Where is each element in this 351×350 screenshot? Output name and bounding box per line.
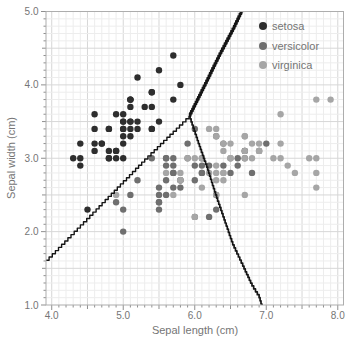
legend-item-versicolor: versicolor: [259, 38, 319, 54]
point-virginica: [213, 170, 219, 176]
point-setosa: [170, 52, 176, 58]
point-virginica: [213, 126, 219, 132]
point-versicolor: [199, 162, 205, 168]
point-setosa: [134, 118, 140, 124]
y-tick-label: 1.0: [25, 300, 39, 311]
point-virginica: [242, 133, 248, 139]
point-versicolor: [170, 184, 176, 190]
point-versicolor: [170, 162, 176, 168]
point-virginica: [256, 140, 262, 146]
point-virginica: [313, 96, 319, 102]
point-versicolor: [192, 177, 198, 183]
point-versicolor: [163, 192, 169, 198]
legend-swatch-setosa: [259, 22, 267, 30]
point-virginica: [213, 177, 219, 183]
point-versicolor: [184, 140, 190, 146]
point-versicolor: [120, 206, 126, 212]
point-setosa: [106, 148, 112, 154]
point-setosa: [77, 162, 83, 168]
legend-item-virginica: virginica: [259, 57, 319, 73]
y-tick-label: 3.0: [25, 153, 39, 164]
x-tick-label: 6.0: [188, 310, 202, 321]
point-virginica: [220, 177, 226, 183]
legend-swatch-virginica: [259, 61, 267, 69]
point-setosa: [177, 82, 183, 88]
legend-item-setosa: setosa: [259, 18, 319, 34]
point-versicolor: [249, 170, 255, 176]
point-virginica: [313, 170, 319, 176]
point-virginica: [249, 155, 255, 161]
point-versicolor: [113, 199, 119, 205]
x-tick-label: 7.0: [259, 310, 273, 321]
point-virginica: [170, 192, 176, 198]
point-setosa: [127, 104, 133, 110]
iris-decision-boundary-chart: 4.05.06.07.08.01.02.03.04.05.0 Sepal wid…: [0, 0, 351, 350]
point-setosa: [149, 126, 155, 132]
point-virginica: [192, 214, 198, 220]
point-virginica: [306, 155, 312, 161]
point-setosa: [127, 133, 133, 139]
point-setosa: [156, 118, 162, 124]
point-versicolor: [177, 184, 183, 190]
point-virginica: [227, 140, 233, 146]
point-setosa: [91, 140, 97, 146]
point-setosa: [70, 155, 76, 161]
legend-label-versicolor: versicolor: [272, 38, 319, 54]
point-setosa: [113, 155, 119, 161]
point-virginica: [177, 170, 183, 176]
point-virginica: [277, 140, 283, 146]
point-setosa: [142, 104, 148, 110]
point-setosa: [134, 74, 140, 80]
point-virginica: [213, 133, 219, 139]
point-virginica: [227, 155, 233, 161]
point-setosa: [91, 111, 97, 117]
point-virginica: [285, 162, 291, 168]
point-versicolor: [213, 206, 219, 212]
x-axis-title: Sepal length (cm): [46, 322, 344, 338]
point-setosa: [134, 126, 140, 132]
point-setosa: [99, 140, 105, 146]
point-virginica: [184, 155, 190, 161]
point-setosa: [106, 155, 112, 161]
y-axis-title: Sepal width (cm): [5, 117, 17, 199]
point-versicolor: [220, 162, 226, 168]
point-virginica: [220, 170, 226, 176]
legend-label-setosa: setosa: [272, 18, 304, 34]
point-versicolor: [206, 214, 212, 220]
point-setosa: [170, 96, 176, 102]
x-tick-label: 4.0: [45, 310, 59, 321]
point-setosa: [120, 126, 126, 132]
point-setosa: [127, 96, 133, 102]
point-setosa: [120, 118, 126, 124]
point-virginica: [249, 140, 255, 146]
legend-swatch-versicolor: [259, 42, 267, 50]
legend: setosa versicolor virginica: [259, 18, 319, 77]
point-virginica: [213, 162, 219, 168]
point-versicolor: [235, 155, 241, 161]
point-virginica: [163, 170, 169, 176]
x-tick-label: 8.0: [331, 310, 345, 321]
point-versicolor: [192, 162, 198, 168]
point-versicolor: [163, 177, 169, 183]
y-tick-label: 5.0: [25, 6, 39, 17]
point-setosa: [113, 148, 119, 154]
point-virginica: [277, 155, 283, 161]
x-tick-label: 5.0: [116, 310, 130, 321]
point-versicolor: [199, 170, 205, 176]
point-versicolor: [163, 155, 169, 161]
point-virginica: [220, 140, 226, 146]
point-versicolor: [127, 192, 133, 198]
point-setosa: [77, 155, 83, 161]
point-versicolor: [156, 206, 162, 212]
point-setosa: [77, 140, 83, 146]
point-virginica: [206, 126, 212, 132]
point-virginica: [199, 184, 205, 190]
point-virginica: [242, 155, 248, 161]
point-versicolor: [235, 162, 241, 168]
point-setosa: [91, 148, 97, 154]
legend-label-virginica: virginica: [272, 57, 312, 73]
point-virginica: [292, 170, 298, 176]
point-setosa: [149, 89, 155, 95]
point-versicolor: [227, 170, 233, 176]
point-virginica: [313, 184, 319, 190]
